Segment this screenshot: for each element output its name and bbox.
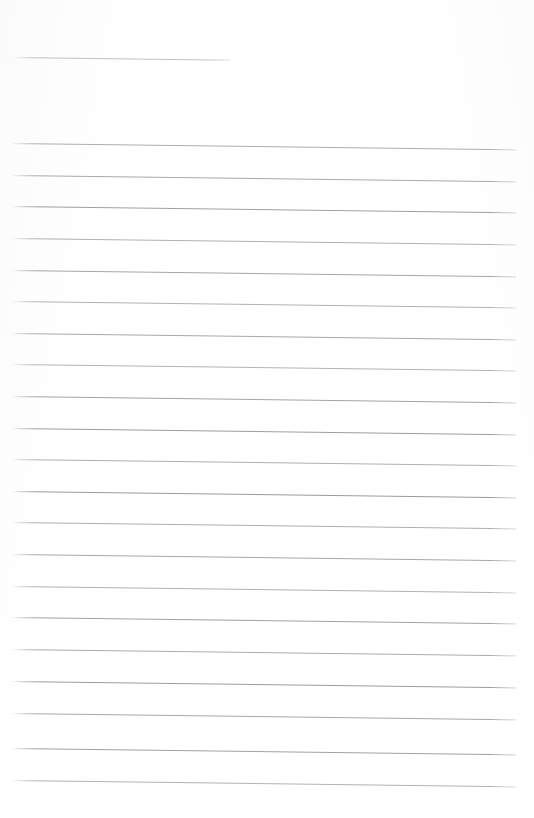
ruled-line xyxy=(12,270,516,277)
ruled-line xyxy=(12,333,516,340)
ruled-line xyxy=(12,713,516,720)
paper-texture xyxy=(0,0,534,818)
ruled-line xyxy=(12,522,516,529)
ruled-line xyxy=(12,364,516,371)
ruled-line xyxy=(12,175,516,182)
scanned-page xyxy=(0,0,534,818)
ruled-line xyxy=(12,428,516,435)
ruled-line xyxy=(12,206,516,213)
ruled-line xyxy=(12,649,516,656)
ruled-line xyxy=(12,748,516,755)
ruled-line xyxy=(12,617,516,624)
title-underline-rule xyxy=(13,57,231,61)
ruled-line xyxy=(12,681,516,688)
ruled-line xyxy=(12,780,516,787)
ruled-line xyxy=(12,238,516,245)
ruled-line xyxy=(12,143,516,150)
ruled-line xyxy=(12,586,516,593)
ruled-line xyxy=(12,554,516,561)
ruled-line xyxy=(12,459,516,466)
ruled-line xyxy=(12,301,516,308)
ruled-line xyxy=(12,491,516,498)
ruled-line xyxy=(12,396,516,403)
